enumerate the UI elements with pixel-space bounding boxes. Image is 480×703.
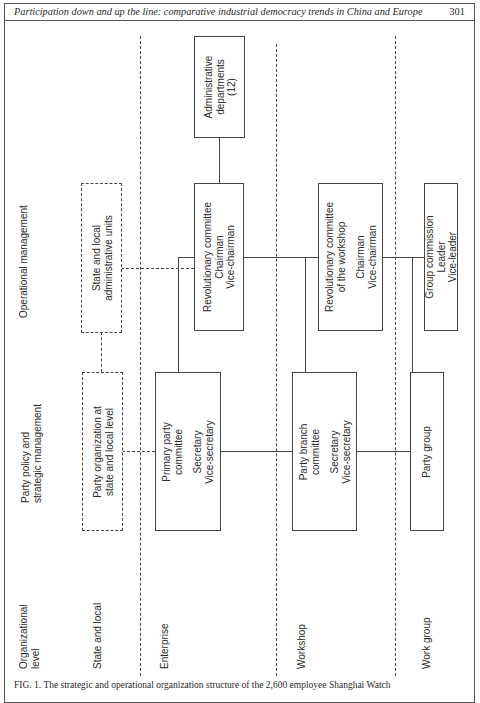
connector-workshop-groupcommission	[382, 257, 424, 258]
box-text: Primary party	[161, 420, 173, 484]
box-text: Group commission	[424, 215, 436, 298]
label-text: Operational management	[18, 205, 30, 318]
box-text: Secretary	[192, 420, 204, 484]
box-text: committee	[173, 420, 185, 484]
box-text: (12)	[225, 56, 237, 119]
label-text: level	[30, 605, 42, 669]
connector-stateadmin-partyorg	[101, 332, 102, 372]
connector-stateadmin-revcommittee	[121, 268, 194, 269]
connector-primaryparty-branch	[220, 451, 292, 452]
box-text: Chairman	[213, 202, 225, 312]
column-label-operational: Operational management	[18, 205, 30, 318]
box-text: of the workshop	[335, 202, 347, 312]
box-group-commission: Group commission Leader Vice-leader	[424, 183, 458, 331]
connector-enterprise-vertical	[178, 257, 179, 372]
box-text: Revolutionary committee	[202, 202, 214, 312]
separator-state-enterprise	[140, 36, 141, 676]
box-text: Vice-secretary	[340, 420, 352, 484]
connector-branch-partygroup	[356, 451, 410, 452]
level-label-workgroup: Work group	[421, 617, 433, 669]
box-text: Vice-chairman	[366, 202, 378, 312]
label-text: Organizational	[18, 605, 30, 669]
label-text: Work group	[421, 617, 433, 669]
level-label-enterprise: Enterprise	[159, 623, 171, 669]
label-text: Party policy and	[20, 404, 32, 503]
running-header: Participation down and up the line: comp…	[4, 3, 475, 21]
box-administrative-departments: Administrative departments (12)	[194, 36, 245, 138]
box-text: departments	[214, 56, 226, 119]
box-text: committee	[309, 420, 321, 484]
connector-workgroup-vertical	[412, 257, 413, 372]
box-text: Revolutionary committee	[324, 202, 336, 312]
box-text: state and local level	[103, 406, 115, 498]
header-title: Participation down and up the line: comp…	[14, 6, 423, 17]
box-text: Party organization at	[91, 406, 103, 498]
label-text: State and local	[92, 603, 104, 669]
separator-enterprise-workshop	[276, 44, 277, 676]
box-text: Secretary	[329, 420, 341, 484]
box-text: administrative units	[102, 215, 114, 301]
box-text: Leader	[435, 215, 447, 298]
level-label-state: State and local	[92, 603, 104, 669]
figure-caption: FIG. 1. The strategic and operational or…	[14, 680, 391, 690]
box-text: Party branch	[298, 420, 310, 484]
box-text: Administrative	[202, 56, 214, 119]
box-text: State and local	[90, 215, 102, 301]
connector-admin-revcommittee	[219, 138, 220, 183]
connector-enterprise-top	[178, 257, 194, 258]
connector-revcommittee-workshop	[243, 257, 318, 258]
box-primary-party-committee: Primary party committee Secretary Vice-s…	[155, 372, 221, 531]
label-text: Workshop	[296, 624, 308, 669]
label-text: Enterprise	[159, 623, 171, 669]
page-number: 301	[449, 6, 465, 17]
separator-workshop-workgroup	[395, 36, 396, 676]
level-label-workshop: Workshop	[296, 624, 308, 669]
label-text: strategic management	[32, 404, 44, 503]
level-label-heading: Organizational level	[18, 605, 41, 669]
box-party-org-state: Party organization at state and local le…	[82, 372, 123, 531]
connector-workshop-vertical	[305, 257, 306, 372]
box-state-admin-units: State and local administrative units	[81, 183, 122, 333]
box-rev-committee-workshop: Revolutionary committee of the workshop …	[318, 183, 383, 331]
box-text: Vice-leader	[447, 215, 459, 298]
column-label-party: Party policy and strategic management	[20, 404, 43, 503]
box-revolutionary-committee: Revolutionary committee Chairman Vice-ch…	[194, 183, 244, 331]
box-party-branch-committee: Party branch committee Secretary Vice-se…	[292, 372, 357, 531]
box-text: Vice-secretary	[204, 420, 216, 484]
box-text: Vice-chairman	[225, 202, 237, 312]
box-text: Party group	[421, 426, 433, 478]
box-text: Chairman	[355, 202, 367, 312]
box-party-group: Party group	[410, 372, 444, 531]
connector-partyorg-primaryparty	[122, 451, 155, 452]
